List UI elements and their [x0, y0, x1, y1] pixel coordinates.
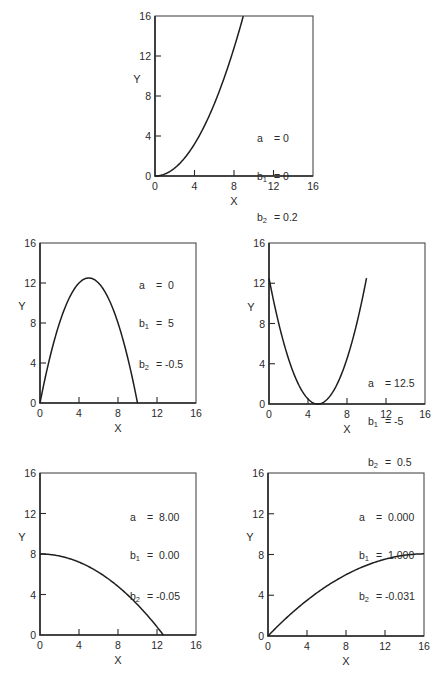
legend-a-value: = 0 [156, 279, 174, 292]
y-tick-label: 12 [139, 50, 151, 62]
y-tick-label: 0 [145, 170, 151, 182]
legend-panel-2: a= 12.5 b1= -5 b2= 0.5 [368, 352, 415, 485]
x-tick-label: 12 [379, 640, 391, 652]
legend-b2-value: = -0.031 [376, 590, 415, 607]
legend-b1-value: = 1.000 [376, 549, 414, 566]
legend-a-value: = 8.00 [147, 511, 179, 524]
y-tick-label: 8 [30, 317, 36, 329]
x-tick-label: 4 [305, 408, 311, 420]
y-tick-label: 4 [259, 358, 265, 370]
legend-b1-value: = 5 [156, 317, 174, 334]
legend-a-value: = 0.000 [376, 511, 414, 524]
x-tick-label: 4 [304, 640, 310, 652]
x-tick-label: 16 [418, 640, 430, 652]
legend-b2-sub: 2 [145, 363, 149, 372]
y-tick-label: 12 [24, 508, 36, 520]
x-tick-label: 16 [419, 408, 431, 420]
x-tick-label: 0 [37, 639, 43, 651]
y-axis-label: Y [247, 301, 255, 313]
quadratic-curve [40, 278, 138, 403]
legend-b1-sub: 1 [263, 175, 267, 184]
x-tick-label: 4 [76, 407, 82, 419]
x-tick-label: 8 [115, 639, 121, 651]
x-tick-label: 8 [231, 180, 237, 192]
legend-b2-sub: 2 [365, 595, 369, 604]
y-tick-label: 12 [253, 277, 265, 289]
x-tick-label: 0 [265, 640, 271, 652]
legend-panel-3: a= 8.00 b1= 0.00 b2= -0.05 [130, 486, 180, 619]
y-tick-label: 0 [30, 629, 36, 641]
legend-b1-sub: 1 [365, 554, 369, 563]
y-tick-label: 16 [24, 467, 36, 479]
x-axis-label: X [342, 655, 350, 667]
x-tick-label: 16 [190, 407, 202, 419]
x-tick-label: 12 [151, 407, 163, 419]
legend-b1-sub: 1 [136, 554, 140, 563]
y-tick-label: 12 [24, 277, 36, 289]
x-tick-label: 16 [190, 639, 202, 651]
legend-a-name: a [368, 377, 385, 390]
y-axis-label: Y [246, 531, 254, 543]
y-tick-label: 4 [258, 589, 264, 601]
y-tick-label: 4 [145, 130, 151, 142]
y-tick-label: 0 [30, 397, 36, 409]
legend-panel-0: a= 0 b1= 0 b2= 0.2 [257, 107, 298, 240]
legend-a-name: a [130, 511, 147, 524]
legend-a-value: = 12.5 [385, 377, 415, 390]
y-axis-label: Y [18, 300, 26, 312]
quadratic-curve [155, 16, 243, 176]
y-tick-label: 16 [139, 10, 151, 22]
y-tick-label: 8 [30, 548, 36, 560]
legend-panel-1: a= 0 b1= 5 b2= -0.5 [139, 254, 183, 387]
x-axis-label: X [230, 195, 238, 207]
legend-b2-value: = -0.5 [156, 358, 183, 375]
legend-b2-value: = -0.05 [147, 590, 180, 607]
legend-b1-sub: 1 [374, 420, 378, 429]
x-tick-label: 4 [76, 639, 82, 651]
legend-a-name: a [139, 279, 156, 292]
y-tick-label: 16 [24, 237, 36, 249]
x-tick-label: 12 [151, 639, 163, 651]
y-tick-label: 8 [145, 90, 151, 102]
y-axis-label: Y [18, 531, 26, 543]
legend-a-name: a [359, 511, 376, 524]
legend-b2-sub: 2 [136, 595, 140, 604]
y-tick-label: 12 [252, 508, 264, 520]
legend-b1-value: = -5 [385, 415, 403, 432]
x-tick-label: 0 [152, 180, 158, 192]
legend-b2-value: = 0.5 [385, 456, 412, 473]
x-tick-label: 8 [344, 408, 350, 420]
x-tick-label: 8 [343, 640, 349, 652]
y-tick-label: 4 [30, 357, 36, 369]
x-tick-label: 0 [37, 407, 43, 419]
x-axis-label: X [114, 422, 122, 434]
y-tick-label: 0 [259, 398, 265, 410]
quadratic-curve [269, 278, 367, 404]
x-tick-label: 0 [266, 408, 272, 420]
y-tick-label: 8 [258, 549, 264, 561]
y-tick-label: 8 [259, 318, 265, 330]
legend-b1-value: = 0 [274, 170, 289, 187]
x-tick-label: 4 [192, 180, 198, 192]
y-tick-label: 0 [258, 630, 264, 642]
y-tick-label: 16 [252, 467, 264, 479]
y-tick-label: 4 [30, 589, 36, 601]
x-axis-label: X [343, 423, 351, 435]
legend-b1-value: = 0.00 [147, 549, 179, 566]
legend-panel-4: a= 0.000 b1= 1.000 b2= -0.031 [359, 486, 415, 619]
legend-b2-sub: 2 [263, 216, 267, 225]
legend-b1-sub: 1 [145, 322, 149, 331]
legend-a-value: = 0 [274, 132, 289, 145]
legend-b2-value: = 0.2 [274, 211, 298, 228]
legend-a-name: a [257, 132, 274, 145]
x-axis-label: X [114, 654, 122, 666]
x-tick-label: 8 [115, 407, 121, 419]
y-axis-label: Y [133, 73, 141, 85]
x-tick-label: 16 [307, 180, 319, 192]
legend-b2-sub: 2 [374, 461, 378, 470]
